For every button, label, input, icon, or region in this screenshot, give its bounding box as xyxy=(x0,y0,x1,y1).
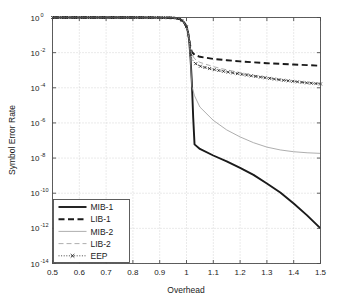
x-tick-label: 1.2 xyxy=(235,268,247,277)
y-tick-exponent: -4 xyxy=(41,82,46,88)
x-tick-label: 0.9 xyxy=(154,268,166,277)
y-tick-exponent: -14 xyxy=(41,258,49,264)
x-tick-label: 0.5 xyxy=(47,268,59,277)
legend-label: LIB-2 xyxy=(91,239,112,249)
y-tick-exponent: -2 xyxy=(41,47,46,53)
y-axis-title: Symbol Error Rate xyxy=(7,105,17,175)
chart-figure: 0.50.60.70.80.911.11.21.31.41.5 10010-21… xyxy=(0,0,338,301)
legend-label: MIB-1 xyxy=(91,202,114,212)
y-tick-base: 10 xyxy=(31,224,40,233)
x-tick-label: 1.4 xyxy=(288,268,300,277)
legend[interactable]: MIB-1LIB-1MIB-2LIB-2EEP xyxy=(54,200,130,263)
y-tick-exponent: -6 xyxy=(41,117,46,123)
y-tick-base: 10 xyxy=(31,260,40,269)
symbol-error-rate-chart: 0.50.60.70.80.911.11.21.31.41.5 10010-21… xyxy=(0,0,338,301)
y-tick-exponent: -12 xyxy=(41,222,49,228)
y-tick-base: 10 xyxy=(31,14,40,23)
y-tick-exponent: 0 xyxy=(41,12,44,18)
y-tick-base: 10 xyxy=(31,189,40,198)
x-axis-title: Overhead xyxy=(167,285,205,295)
legend-label: MIB-2 xyxy=(91,227,114,237)
x-tick-label: 0.8 xyxy=(127,268,139,277)
legend-label: EEP xyxy=(91,251,108,261)
y-tick-base: 10 xyxy=(31,154,40,163)
x-tick-label: 1.3 xyxy=(261,268,273,277)
x-tick-label: 0.7 xyxy=(101,268,113,277)
y-tick-exponent: -8 xyxy=(41,152,46,158)
y-tick-exponent: -10 xyxy=(41,187,49,193)
x-tick-label: 1.5 xyxy=(315,268,327,277)
x-tick-label: 1 xyxy=(184,268,189,277)
y-tick-base: 10 xyxy=(31,119,40,128)
x-tick-label: 0.6 xyxy=(74,268,86,277)
legend-label: LIB-1 xyxy=(91,214,112,224)
y-tick-base: 10 xyxy=(31,49,40,58)
x-tick-label: 1.1 xyxy=(208,268,220,277)
y-tick-base: 10 xyxy=(31,84,40,93)
